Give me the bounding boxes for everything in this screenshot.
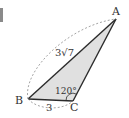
- side-label-bc: 3: [46, 102, 52, 113]
- vertex-label-a: A: [111, 5, 121, 18]
- side-label-ab: 3√7: [55, 47, 74, 58]
- vertex-label-b: B: [15, 94, 23, 107]
- vertex-label-c: C: [70, 101, 78, 114]
- angle-label-c: 120°: [55, 86, 77, 96]
- triangle-diagram: A B C 3√7 3 120°: [0, 0, 129, 118]
